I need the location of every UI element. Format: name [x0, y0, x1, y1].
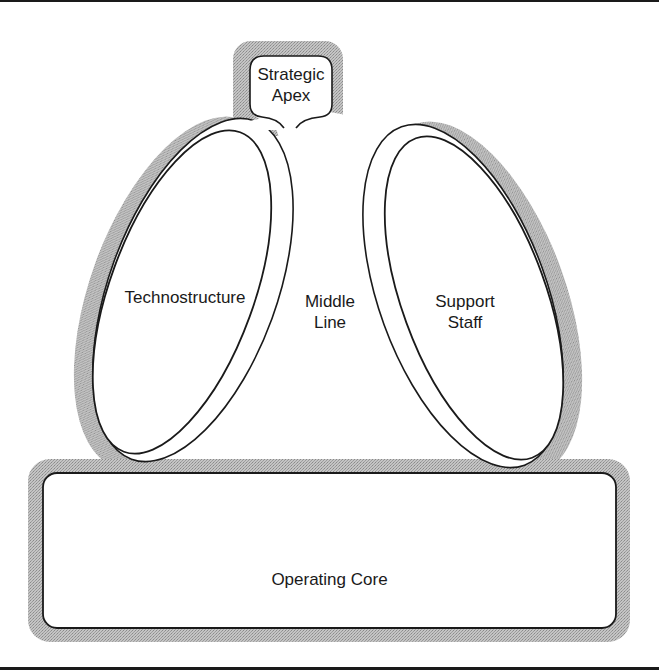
- bottom-rule: [0, 667, 659, 670]
- support-staff-line2: Staff: [420, 312, 510, 333]
- strategic-apex-label: Strategic Apex: [250, 64, 332, 106]
- support-staff-label: Support Staff: [420, 291, 510, 333]
- middle-line-label: Middle Line: [290, 291, 370, 333]
- strategic-apex-line1: Strategic: [250, 64, 332, 85]
- operating-core-box: [43, 473, 616, 628]
- strategic-apex-line2: Apex: [250, 85, 332, 106]
- middle-line-line2: Line: [290, 312, 370, 333]
- operating-core-text: Operating Core: [230, 569, 429, 590]
- technostructure-text: Technostructure: [110, 287, 260, 308]
- technostructure-label: Technostructure: [110, 287, 260, 308]
- operating-core-label: Operating Core: [230, 569, 429, 590]
- support-staff-line1: Support: [420, 291, 510, 312]
- middle-line-line1: Middle: [290, 291, 370, 312]
